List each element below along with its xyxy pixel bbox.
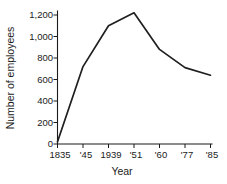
x-tick-label-1939: 1939 [100,149,121,160]
x-tick-label-51: '51 [130,149,142,160]
employees-series-line [58,13,211,142]
y-tick-label-400: 400 [37,95,53,106]
chart-canvas: Number of employees 0 200 400 600 800 1,… [0,0,227,184]
y-tick-label-0: 0 [48,138,53,149]
y-axis-title: Number of employees [4,27,16,130]
y-tick-label-1200: 1,200 [29,9,53,20]
y-tick-label-800: 800 [37,52,53,63]
x-tick-label-45: '45 [80,149,92,160]
y-tick-label-200: 200 [37,117,53,128]
x-tick-label-60: '60 [155,149,167,160]
x-tick-label-1835: 1835 [49,149,70,160]
y-tick-label-600: 600 [37,74,53,85]
employees-line-chart: Number of employees 0 200 400 600 800 1,… [0,0,227,184]
x-tick-label-77: '77 [181,149,193,160]
y-tick-label-1000: 1,000 [29,31,53,42]
x-axis-title: Year [111,165,133,177]
x-tick-label-85: '85 [206,149,218,160]
